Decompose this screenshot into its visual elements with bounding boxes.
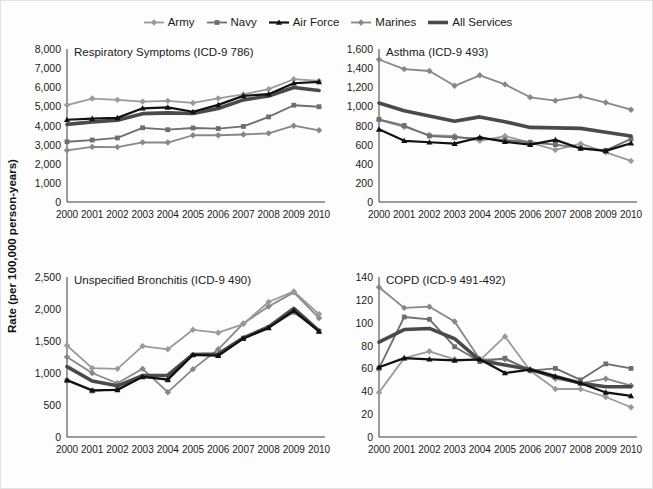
figure-container: ArmyNavyAir ForceMarinesAll Services Rat… (0, 0, 653, 489)
legend-swatch-none-icon (427, 17, 449, 28)
legend-label: Navy (231, 16, 257, 28)
series-marines (64, 289, 322, 395)
plot-area (23, 37, 331, 237)
legend-swatch-square-icon (206, 17, 228, 28)
legend-item-navy[interactable]: Navy (206, 16, 257, 28)
series-marines (376, 56, 634, 113)
panel-copd: 0204060801001201402000200120022003200420… (331, 263, 647, 473)
series-navy (65, 310, 322, 394)
legend-swatch-diamond-icon (350, 17, 372, 28)
panel-unspecified-bronchitis: 05001,0001,5002,0002,5002000200120022003… (23, 263, 331, 473)
y-axis-label: Rate (per 100,000 person-years) (3, 1, 21, 489)
legend-item-marines[interactable]: Marines (350, 16, 416, 28)
legend-label: Army (168, 16, 195, 28)
panel-respiratory-symptoms: 01,0002,0003,0004,0005,0006,0007,0008,00… (23, 37, 331, 237)
legend-label: All Services (452, 16, 512, 28)
y-axis-label-text: Rate (per 100,000 person-years) (6, 159, 18, 333)
plot-area (331, 263, 647, 473)
chart-legend: ArmyNavyAir ForceMarinesAll Services (1, 13, 653, 31)
axis-lines (379, 277, 637, 437)
panel-asthma: 02004006008001,0001,2001,4001,6002000200… (331, 37, 647, 237)
axis-lines (379, 49, 637, 202)
legend-label: Marines (375, 16, 416, 28)
plot-area (23, 263, 331, 473)
legend-item-air-force[interactable]: Air Force (268, 16, 340, 28)
legend-item-all-services[interactable]: All Services (427, 16, 512, 28)
legend-item-army[interactable]: Army (143, 16, 195, 28)
legend-swatch-diamond-icon (143, 17, 165, 28)
series-army (64, 288, 322, 372)
axis-lines (67, 49, 325, 202)
legend-label: Air Force (293, 16, 340, 28)
legend-swatch-triangle-icon (268, 17, 290, 28)
plot-area (331, 37, 647, 237)
series-air-force (64, 308, 322, 393)
